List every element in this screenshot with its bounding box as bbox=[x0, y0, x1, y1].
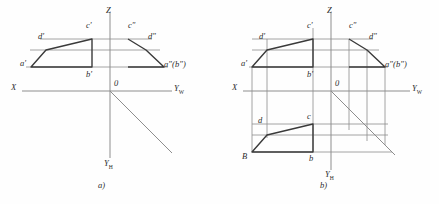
axis-label-x-b: X bbox=[232, 83, 237, 92]
axis-label-z-a: Z bbox=[106, 6, 111, 15]
side-view-trapezoid-a bbox=[128, 39, 164, 67]
label-a-b-double-prime-a: a"(b") bbox=[164, 60, 186, 69]
label-a-prime-b: a' bbox=[241, 59, 247, 68]
label-b-prime-b: b' bbox=[307, 70, 313, 79]
label-c-prime-b: c' bbox=[307, 21, 313, 30]
axis-label-z-b: Z bbox=[327, 6, 332, 15]
caption-panel-b: b) bbox=[320, 180, 327, 190]
axis-label-yh-a: YH bbox=[104, 159, 113, 170]
label-a-prime-a: a' bbox=[20, 59, 26, 68]
label-d-prime-b: d' bbox=[259, 32, 265, 41]
axis-label-origin-a: 0 bbox=[114, 79, 118, 88]
axis-label-yw-a: YW bbox=[174, 84, 184, 95]
front-view-trapezoid-a bbox=[31, 39, 92, 67]
label-c-double-prime-a: c" bbox=[128, 21, 136, 30]
label-c-plain-b: c bbox=[307, 112, 311, 121]
label-c-double-prime-b: c" bbox=[349, 21, 357, 30]
label-d-plain-b: d bbox=[258, 116, 262, 125]
label-d-double-prime-b: d" bbox=[369, 32, 377, 41]
front-view-trapezoid-b bbox=[252, 39, 313, 67]
axis-label-yw-b: YW bbox=[412, 84, 422, 95]
label-B-plain-b: B bbox=[242, 152, 247, 161]
label-a-b-double-prime-b: a"(b") bbox=[385, 60, 407, 69]
label-b-plain-b: b bbox=[309, 154, 313, 163]
caption-panel-a: a) bbox=[98, 180, 105, 190]
axis-diagonal-45-a bbox=[110, 91, 172, 153]
label-b-prime-a: b' bbox=[86, 70, 92, 79]
axis-label-origin-b: 0 bbox=[335, 79, 339, 88]
panel-b-geometry bbox=[243, 12, 410, 170]
label-d-double-prime-a: d" bbox=[148, 32, 156, 41]
figure-canvas: a' d' c' b' c" d" a"(b") X Z 0 YW YH a) … bbox=[0, 0, 439, 204]
label-c-prime-a: c' bbox=[86, 21, 92, 30]
axis-label-x-a: X bbox=[11, 83, 16, 92]
label-d-prime-a: d' bbox=[38, 32, 44, 41]
top-view-trapezoid-b bbox=[252, 124, 313, 152]
